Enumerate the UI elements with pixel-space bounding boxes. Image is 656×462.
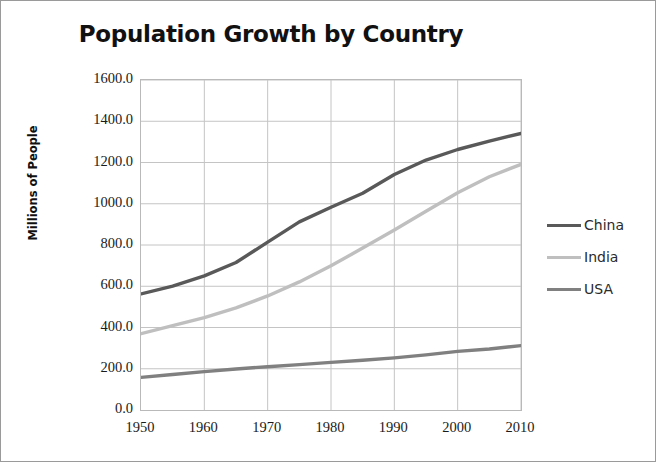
y-tick-label: 800.0 bbox=[53, 235, 133, 252]
x-tick-label: 1950 bbox=[110, 419, 170, 436]
series-canvas bbox=[141, 80, 521, 410]
x-tick-label: 1990 bbox=[363, 419, 423, 436]
y-tick-label: 1400.0 bbox=[53, 111, 133, 128]
y-tick-label: 400.0 bbox=[53, 318, 133, 335]
x-tick-label: 1970 bbox=[237, 419, 297, 436]
y-tick-label: 600.0 bbox=[53, 276, 133, 293]
y-tick-label: 200.0 bbox=[53, 359, 133, 376]
legend-color-swatch bbox=[547, 224, 581, 227]
legend-item-label: USA bbox=[581, 281, 613, 297]
x-tick-label: 2000 bbox=[427, 419, 487, 436]
legend-color-swatch bbox=[547, 288, 581, 291]
plot-area bbox=[140, 79, 522, 411]
chart-legend: ChinaIndiaUSA bbox=[547, 209, 655, 305]
x-tick-label: 1960 bbox=[173, 419, 233, 436]
legend-color-swatch bbox=[547, 256, 581, 259]
y-tick-label: 1000.0 bbox=[53, 194, 133, 211]
x-tick-label: 1980 bbox=[300, 419, 360, 436]
legend-item-label: China bbox=[581, 217, 624, 233]
y-axis-title: Millions of People bbox=[26, 123, 40, 243]
legend-item-usa[interactable]: USA bbox=[547, 273, 655, 305]
y-tick-label: 1600.0 bbox=[53, 70, 133, 87]
legend-item-label: India bbox=[581, 249, 618, 265]
y-tick-label: 1200.0 bbox=[53, 153, 133, 170]
legend-item-china[interactable]: China bbox=[547, 209, 655, 241]
legend-item-india[interactable]: India bbox=[547, 241, 655, 273]
chart-screenshot: Population Growth by Country Millions of… bbox=[0, 0, 656, 462]
x-tick-label: 2010 bbox=[490, 419, 550, 436]
y-axis-tick-labels: 1600.01400.01200.01000.0800.0600.0400.02… bbox=[49, 1, 133, 462]
y-tick-label: 0.0 bbox=[53, 400, 133, 417]
